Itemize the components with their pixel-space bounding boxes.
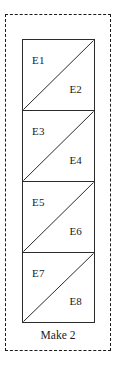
piece-label-e8: E8 — [69, 296, 82, 307]
piece-label-e3: E3 — [32, 126, 45, 137]
piece-label-e7: E7 — [32, 268, 45, 279]
piece-label-e4: E4 — [69, 155, 82, 166]
cutting-diagram: E1 E2 E3 E4 E5 E6 E7 E8 Make 2 — [0, 0, 120, 376]
piece-label-e5: E5 — [32, 197, 45, 208]
make-caption: Make 2 — [5, 328, 111, 342]
diagonal-line-icon — [23, 111, 94, 181]
diagonal-line-icon — [23, 182, 94, 252]
diagonal-line-icon — [23, 40, 94, 110]
unit-stack: E1 E2 E3 E4 E5 E6 E7 E8 — [22, 39, 95, 323]
piece-label-e6: E6 — [69, 226, 82, 237]
diagonal-line-icon — [23, 253, 94, 322]
unit-1: E1 E2 — [22, 39, 95, 110]
unit-3: E5 E6 — [22, 181, 95, 252]
piece-label-e2: E2 — [69, 84, 82, 95]
unit-2: E3 E4 — [22, 110, 95, 181]
piece-label-e1: E1 — [32, 55, 45, 66]
unit-4: E7 E8 — [22, 252, 95, 323]
